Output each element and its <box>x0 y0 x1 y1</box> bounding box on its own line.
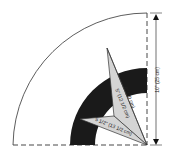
quilt-template-diagram: 10" (25 cm) 8" (20 cm) 5" (12 1/2 cm) 5 … <box>0 0 174 164</box>
height-label: 10" (25 cm) <box>154 67 160 93</box>
arrow-up-icon <box>153 14 159 20</box>
arrow-down-icon <box>153 139 159 145</box>
